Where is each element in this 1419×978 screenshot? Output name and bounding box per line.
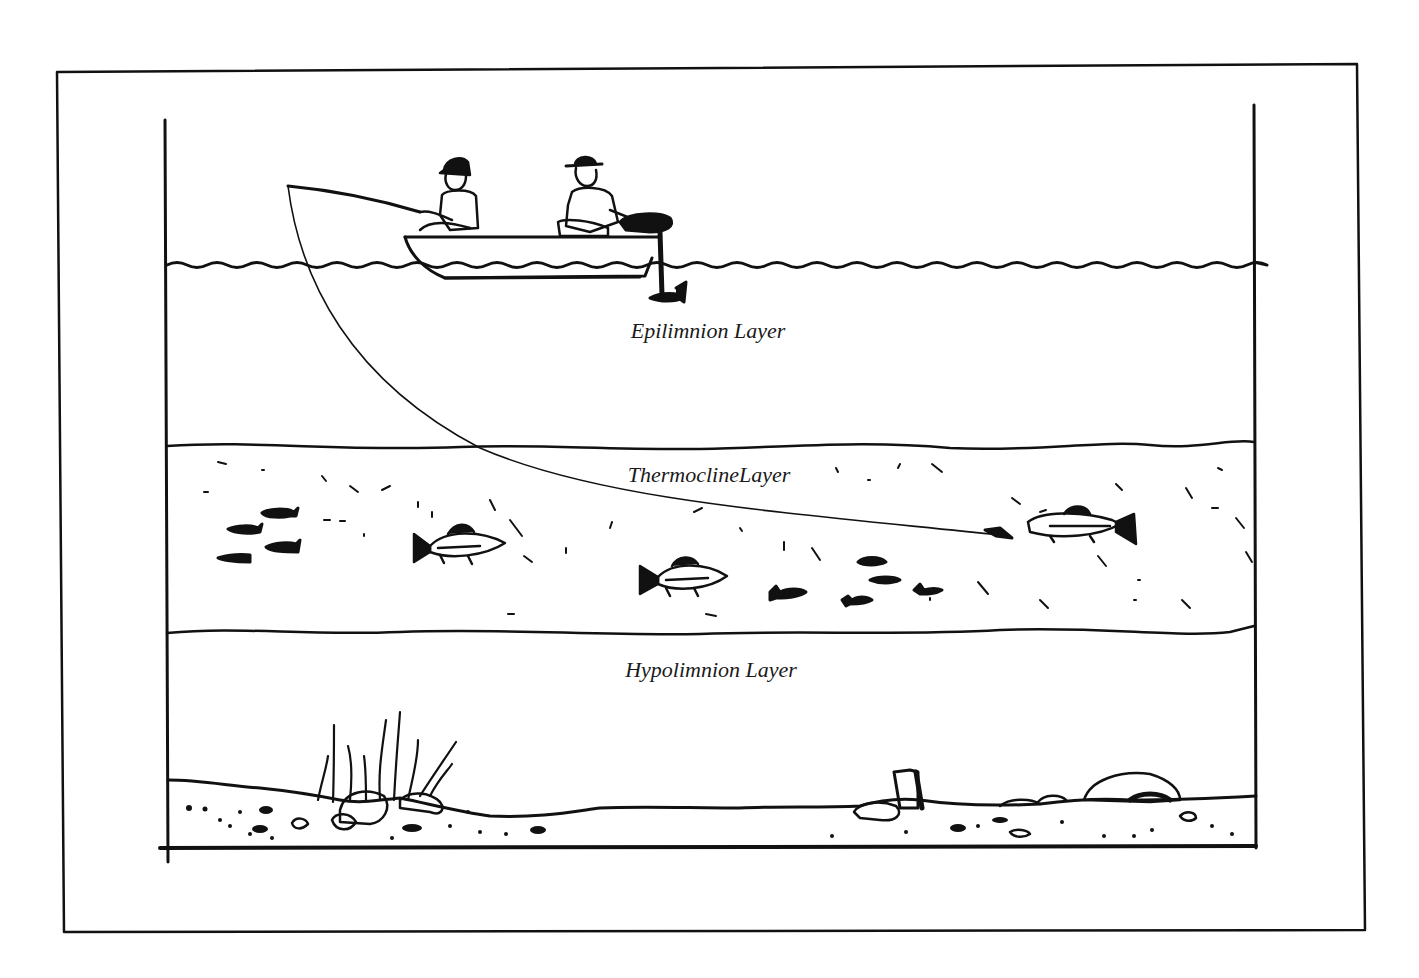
- trout-on-lure: [1028, 507, 1136, 545]
- hypolimnion-label: Hypolimnion Layer: [625, 657, 797, 683]
- angler-with-cap: [420, 158, 478, 230]
- perch-left: [414, 525, 505, 564]
- fishing-rod: [288, 186, 420, 212]
- thermocline-top-boundary: [167, 441, 1254, 449]
- perch-center: [640, 557, 727, 596]
- epilimnion-label: Epilimnion Layer: [631, 318, 786, 344]
- thermocline-label: ThermoclineLayer: [628, 462, 791, 488]
- bottom-line: [160, 846, 1256, 848]
- rocks-left: [292, 792, 442, 830]
- aquatic-weeds: [318, 712, 456, 802]
- stump: [894, 770, 922, 808]
- thermocline-bottom-boundary: [167, 626, 1254, 634]
- lure: [985, 528, 1012, 538]
- left-wall: [165, 120, 168, 862]
- right-wall: [1254, 105, 1256, 848]
- small-baitfish-right: [770, 558, 942, 607]
- water-surface: [167, 262, 1267, 268]
- diagram-drawing: [0, 0, 1419, 978]
- man-with-hat: [558, 157, 630, 236]
- small-baitfish-school: [218, 508, 300, 562]
- lake-stratification-diagram: Epilimnion Layer ThermoclineLayer Hypoli…: [0, 0, 1419, 978]
